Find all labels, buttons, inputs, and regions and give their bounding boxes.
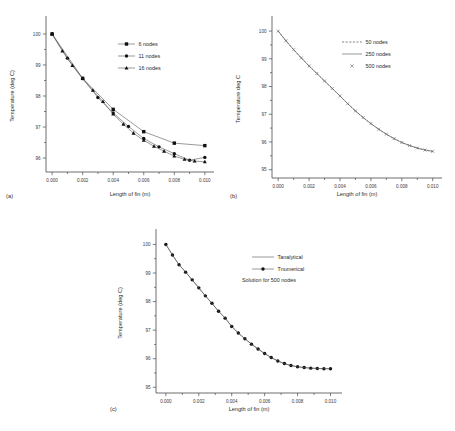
series-line-16-nodes xyxy=(52,34,205,162)
x-tick-label: 0.008 xyxy=(396,184,408,189)
data-marker xyxy=(292,48,295,51)
data-marker xyxy=(125,42,128,45)
y-tick-label: 97 xyxy=(261,112,267,117)
x-tick-label: 0.008 xyxy=(169,178,181,183)
x-tick-label: 0.006 xyxy=(365,184,377,189)
chart-c-y-ticks: 1009998979695 xyxy=(143,242,156,390)
chart-b-svg: 1009998979695 0.0000.0020.0040.0060.0080… xyxy=(226,0,455,205)
chart-panel-a: 10099989796 0.0000.0020.0040.0060.0080.0… xyxy=(0,0,228,205)
y-tick-label: 99 xyxy=(145,271,151,276)
y-tick-label: 96 xyxy=(261,140,267,145)
data-marker xyxy=(112,108,115,111)
chart-a-y-ticks: 10099989796 xyxy=(33,32,46,161)
series-line-50-nodes xyxy=(278,31,433,151)
series-line-250-nodes xyxy=(278,31,433,151)
chart-c-x-ticks: 0.0000.0020.0040.0060.0080.010 xyxy=(160,393,337,404)
x-tick-label: 0.000 xyxy=(46,178,58,183)
x-tick-label: 0.008 xyxy=(292,399,304,404)
figure-root: 10099989796 0.0000.0020.0040.0060.0080.0… xyxy=(0,0,455,431)
legend-label: 16 nodes xyxy=(139,65,161,71)
chart-c-legend: TanalyticalTnumericalSolution for 500 no… xyxy=(242,254,304,283)
y-tick-label: 98 xyxy=(261,84,267,89)
y-tick-label: 95 xyxy=(145,385,151,390)
legend-label: 250 nodes xyxy=(366,51,391,57)
chart-a-legend: 6 nodes11 nodes16 nodes xyxy=(118,41,161,71)
series-line-Tanalytical xyxy=(166,244,331,368)
series-line-Tnumerical xyxy=(166,244,331,368)
series-line-11-nodes xyxy=(52,34,205,160)
x-tick-label: 0.010 xyxy=(325,399,337,404)
x-tick-label: 0.004 xyxy=(334,184,346,189)
panel-label-b: (b) xyxy=(230,193,237,199)
chart-b-x-ticks: 0.0000.0020.0040.0060.0080.010 xyxy=(272,178,438,189)
y-tick-label: 100 xyxy=(33,32,41,37)
data-marker xyxy=(331,87,334,90)
y-tick-label: 99 xyxy=(35,63,41,68)
data-marker xyxy=(142,130,145,133)
data-marker xyxy=(203,144,206,147)
y-tick-label: 100 xyxy=(143,242,151,247)
chart-a-ylabel: Temperature (deg C) xyxy=(9,70,15,122)
chart-b-series xyxy=(277,30,435,153)
x-tick-label: 0.006 xyxy=(259,399,271,404)
legend-label: 50 nodes xyxy=(366,39,388,45)
data-marker xyxy=(203,156,206,159)
y-tick-label: 96 xyxy=(35,156,41,161)
data-marker xyxy=(377,128,380,131)
x-tick-label: 0.004 xyxy=(107,178,119,183)
data-marker xyxy=(385,133,388,136)
data-marker xyxy=(261,267,264,270)
y-tick-label: 98 xyxy=(35,94,41,99)
x-tick-label: 0.000 xyxy=(160,399,172,404)
chart-c-svg: 1009998979695 0.0000.0020.0040.0060.0080… xyxy=(104,205,364,431)
x-tick-label: 0.000 xyxy=(272,184,284,189)
chart-a-x-ticks: 0.0000.0020.0040.0060.0080.010 xyxy=(46,172,211,183)
y-tick-label: 97 xyxy=(35,125,41,130)
data-marker xyxy=(393,137,396,140)
data-marker xyxy=(339,94,342,97)
x-tick-label: 0.010 xyxy=(199,178,211,183)
legend-label: Tnumerical xyxy=(278,266,305,272)
data-marker xyxy=(323,79,326,82)
chart-b-ylabel: Temperature deg C xyxy=(235,75,241,123)
data-marker xyxy=(125,54,128,57)
legend-label: 6 nodes xyxy=(139,41,158,47)
chart-b-xlabel: Length of fin (m) xyxy=(337,191,378,197)
x-tick-label: 0.004 xyxy=(226,399,238,404)
chart-panel-c: 1009998979695 0.0000.0020.0040.0060.0080… xyxy=(104,205,364,431)
legend-label: 500 nodes xyxy=(366,63,391,69)
chart-c-ylabel: Temperature (deg C) xyxy=(117,287,123,339)
chart-a-xlabel: Length of fin (m) xyxy=(110,191,151,197)
x-tick-label: 0.002 xyxy=(303,184,315,189)
data-marker xyxy=(308,65,311,68)
data-marker xyxy=(173,141,176,144)
data-marker xyxy=(277,30,280,33)
data-marker xyxy=(400,141,403,144)
y-tick-label: 96 xyxy=(145,356,151,361)
data-marker xyxy=(362,116,365,119)
data-marker xyxy=(354,109,357,112)
chart-a-axes: 10099989796 0.0000.0020.0040.0060.0080.0… xyxy=(33,16,214,183)
panel-label-c: (c) xyxy=(110,406,117,412)
x-tick-label: 0.010 xyxy=(427,184,439,189)
x-tick-label: 0.006 xyxy=(138,178,150,183)
data-marker xyxy=(346,102,349,105)
data-marker xyxy=(164,243,167,246)
x-tick-label: 0.002 xyxy=(193,399,205,404)
data-marker xyxy=(369,122,372,125)
legend-note: Solution for 500 nodes xyxy=(242,277,296,283)
y-tick-label: 99 xyxy=(261,57,267,62)
panel-label-a: (a) xyxy=(6,193,13,199)
data-marker xyxy=(284,39,287,42)
chart-b-legend: 50 nodes250 nodes500 nodes xyxy=(342,39,391,69)
y-tick-label: 97 xyxy=(145,328,151,333)
chart-c-series xyxy=(164,243,332,371)
chart-panel-b: 1009998979695 0.0000.0020.0040.0060.0080… xyxy=(226,0,455,205)
data-marker xyxy=(125,66,129,70)
chart-a-svg: 10099989796 0.0000.0020.0040.0060.0080.0… xyxy=(0,0,228,205)
y-tick-label: 95 xyxy=(261,167,267,172)
y-tick-label: 98 xyxy=(145,299,151,304)
legend-label: Tanalytical xyxy=(278,254,303,260)
chart-a-series xyxy=(50,32,207,163)
data-marker xyxy=(300,56,303,59)
